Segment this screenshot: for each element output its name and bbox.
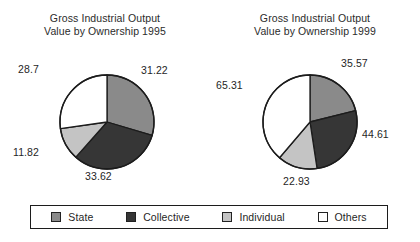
chart-panels: Gross Industrial Output Value by Ownersh…	[0, 0, 420, 196]
legend-item-state: State	[51, 211, 93, 223]
pie-1999-label-others: 65.31	[216, 79, 243, 91]
pie-1999-svg	[210, 0, 420, 196]
legend-item-collective: Collective	[126, 211, 190, 223]
pie-1995-label-individual: 11.82	[13, 146, 39, 158]
pie-1995-svg	[0, 0, 210, 196]
pie-1995-label-state: 31.22	[141, 64, 168, 76]
legend-item-others: Others	[318, 211, 367, 223]
legend-swatch-collective-icon	[126, 212, 136, 222]
pie-1999-label-collective: 44.61	[362, 128, 389, 140]
pie-1999: 35.57 44.61 22.93 65.31	[210, 0, 420, 196]
chart-panel-1999: Gross Industrial Output Value by Ownersh…	[210, 0, 420, 196]
pie-chart-figure: Gross Industrial Output Value by Ownersh…	[0, 0, 420, 242]
pie-1995-label-collective: 33.62	[85, 170, 112, 182]
pie-1995: 31.22 33.62 11.82 28.7	[0, 0, 210, 196]
legend-label-individual: Individual	[239, 211, 284, 223]
legend-swatch-state-icon	[51, 212, 61, 222]
chart-panel-1995: Gross Industrial Output Value by Ownersh…	[0, 0, 210, 196]
pie-slice-others	[60, 75, 107, 129]
legend-label-collective: Collective	[143, 211, 190, 223]
legend-item-individual: Individual	[222, 211, 284, 223]
pie-1999-label-individual: 22.93	[283, 175, 310, 187]
pie-1995-label-others: 28.7	[18, 63, 39, 75]
pie-1999-label-state: 35.57	[341, 57, 368, 69]
legend-swatch-individual-icon	[222, 212, 232, 222]
legend-swatch-others-icon	[318, 212, 328, 222]
chart-legend: State Collective Individual Others	[30, 205, 388, 229]
legend-label-others: Others	[335, 211, 367, 223]
legend-label-state: State	[68, 211, 93, 223]
